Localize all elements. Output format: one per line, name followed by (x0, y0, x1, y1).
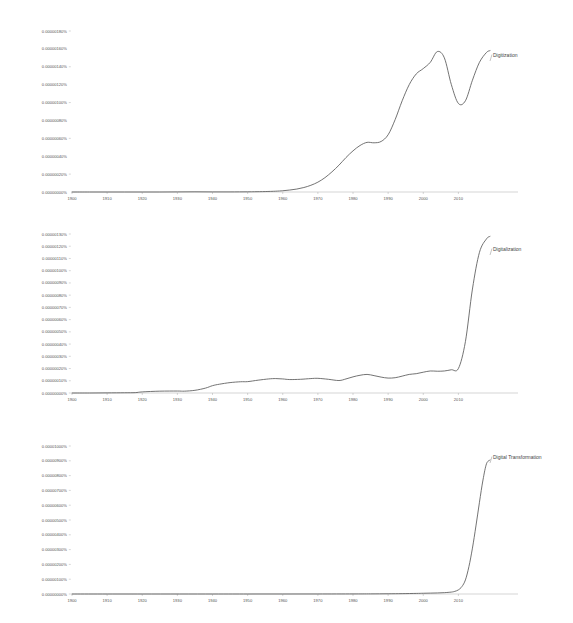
y-axis-tick-label: 0.00000040% (42, 154, 68, 159)
y-axis-tick-label: 0.00000100% (42, 268, 68, 273)
series-label[interactable]: Digital Transformation (493, 454, 542, 460)
x-axis-tick-label: 1990 (384, 397, 394, 402)
x-axis-tick-label: 1960 (278, 397, 288, 402)
x-axis-tick-label: 1990 (384, 598, 394, 603)
series-label-leader (490, 457, 492, 464)
y-axis-tick-label: 0.00000010% (42, 378, 68, 383)
x-axis-tick-label: 2010 (454, 598, 464, 603)
y-axis-tick-label: 0.00000000% (42, 592, 68, 597)
x-axis-tick-label: 2000 (419, 598, 429, 603)
y-axis-tick-label: 0.00000800% (42, 473, 68, 478)
y-axis-tick-label: 0.00000900% (42, 458, 68, 463)
y-axis-tick-label: 0.00000040% (42, 342, 68, 347)
x-axis-tick-label: 1970 (313, 598, 323, 603)
x-axis-tick-label: 1900 (67, 196, 77, 201)
y-axis-tick-label: 0.00000060% (42, 136, 68, 141)
x-axis-tick-label: 1960 (278, 196, 288, 201)
y-axis-tick-label: 0.00000500% (42, 518, 68, 523)
y-axis-tick-label: 0.00000070% (42, 305, 68, 310)
y-axis-tick-label: 0.00000110% (42, 256, 67, 261)
y-axis-tick-label: 0.00000060% (42, 317, 68, 322)
x-axis-tick-label: 1960 (278, 598, 288, 603)
x-axis-tick-label: 1900 (67, 598, 77, 603)
y-axis-tick-label: 0.00000130% (42, 232, 68, 237)
ngram-chart-digitalization[interactable]: 0.00000000%0.00000010%0.00000020%0.00000… (0, 212, 573, 424)
y-axis-tick-label: 0.00000180% (42, 29, 68, 34)
y-axis-tick-label: 0.00000080% (42, 293, 68, 298)
y-axis-tick-label: 0.00000000% (42, 190, 68, 195)
x-axis-tick-label: 1980 (348, 196, 358, 201)
x-axis-tick-label: 1940 (208, 196, 218, 201)
y-axis-tick-label: 0.00001000% (42, 444, 68, 449)
x-axis-tick-label: 1920 (138, 196, 148, 201)
y-axis-tick-label: 0.00000030% (42, 354, 68, 359)
x-axis-tick-label: 2010 (454, 397, 464, 402)
ngram-chart-digitization[interactable]: 0.00000000%0.00000020%0.00000040%0.00000… (0, 0, 573, 212)
y-axis-tick-label: 0.00000140% (42, 64, 68, 69)
x-axis-tick-label: 1970 (313, 196, 323, 201)
y-axis-tick-label: 0.00000400% (42, 532, 68, 537)
x-axis-tick-label: 1950 (243, 196, 253, 201)
y-axis-tick-label: 0.00000100% (42, 100, 68, 105)
y-axis-tick-label: 0.00000160% (42, 46, 68, 51)
y-axis-tick-label: 0.00000000% (42, 391, 68, 396)
data-series-line[interactable] (72, 236, 490, 393)
y-axis-tick-label: 0.00000300% (42, 547, 68, 552)
y-axis-tick-label: 0.00000700% (42, 488, 68, 493)
x-axis-tick-label: 2010 (454, 196, 464, 201)
x-axis-tick-label: 1970 (313, 397, 323, 402)
x-axis-tick-label: 1920 (138, 598, 148, 603)
x-axis-tick-label: 1950 (243, 598, 253, 603)
y-axis-tick-label: 0.00000120% (42, 244, 68, 249)
y-axis-tick-label: 0.00000050% (42, 329, 68, 334)
x-axis-tick-label: 1900 (67, 397, 77, 402)
ngram-chart-digital-transformation[interactable]: 0.00000000%0.00000100%0.00000200%0.00000… (0, 424, 573, 623)
chart-svg-3[interactable]: 0.00000000%0.00000100%0.00000200%0.00000… (0, 424, 573, 623)
chart-svg-1[interactable]: 0.00000000%0.00000020%0.00000040%0.00000… (0, 0, 573, 212)
series-label-leader (490, 249, 492, 256)
x-axis-tick-label: 1930 (173, 397, 183, 402)
x-axis-tick-label: 1940 (208, 598, 218, 603)
data-series-line[interactable] (72, 460, 490, 594)
y-axis-tick-label: 0.00000020% (42, 366, 68, 371)
y-axis-tick-label: 0.00000100% (42, 577, 68, 582)
series-label-leader (490, 55, 492, 62)
y-axis-tick-label: 0.00000120% (42, 82, 68, 87)
y-axis-tick-label: 0.00000020% (42, 172, 68, 177)
x-axis-tick-label: 1980 (348, 397, 358, 402)
x-axis-tick-label: 1910 (103, 598, 113, 603)
chart-svg-2[interactable]: 0.00000000%0.00000010%0.00000020%0.00000… (0, 212, 573, 424)
x-axis-tick-label: 1910 (103, 196, 113, 201)
x-axis-tick-label: 2000 (419, 397, 429, 402)
y-axis-tick-label: 0.00000090% (42, 280, 68, 285)
x-axis-tick-label: 1990 (384, 196, 394, 201)
x-axis-tick-label: 1920 (138, 397, 148, 402)
y-axis-tick-label: 0.00000080% (42, 118, 68, 123)
x-axis-tick-label: 1950 (243, 397, 253, 402)
data-series-line[interactable] (72, 51, 490, 192)
x-axis-tick-label: 1940 (208, 397, 218, 402)
x-axis-tick-label: 1930 (173, 598, 183, 603)
ngram-viewer-page: 0.00000000%0.00000020%0.00000040%0.00000… (0, 0, 573, 623)
y-axis-tick-label: 0.00000600% (42, 503, 68, 508)
x-axis-tick-label: 1930 (173, 196, 183, 201)
series-label[interactable]: Digitalization (493, 246, 522, 252)
series-label[interactable]: Digitization (493, 52, 518, 58)
y-axis-tick-label: 0.00000200% (42, 562, 68, 567)
x-axis-tick-label: 2000 (419, 196, 429, 201)
x-axis-tick-label: 1910 (103, 397, 113, 402)
x-axis-tick-label: 1980 (348, 598, 358, 603)
